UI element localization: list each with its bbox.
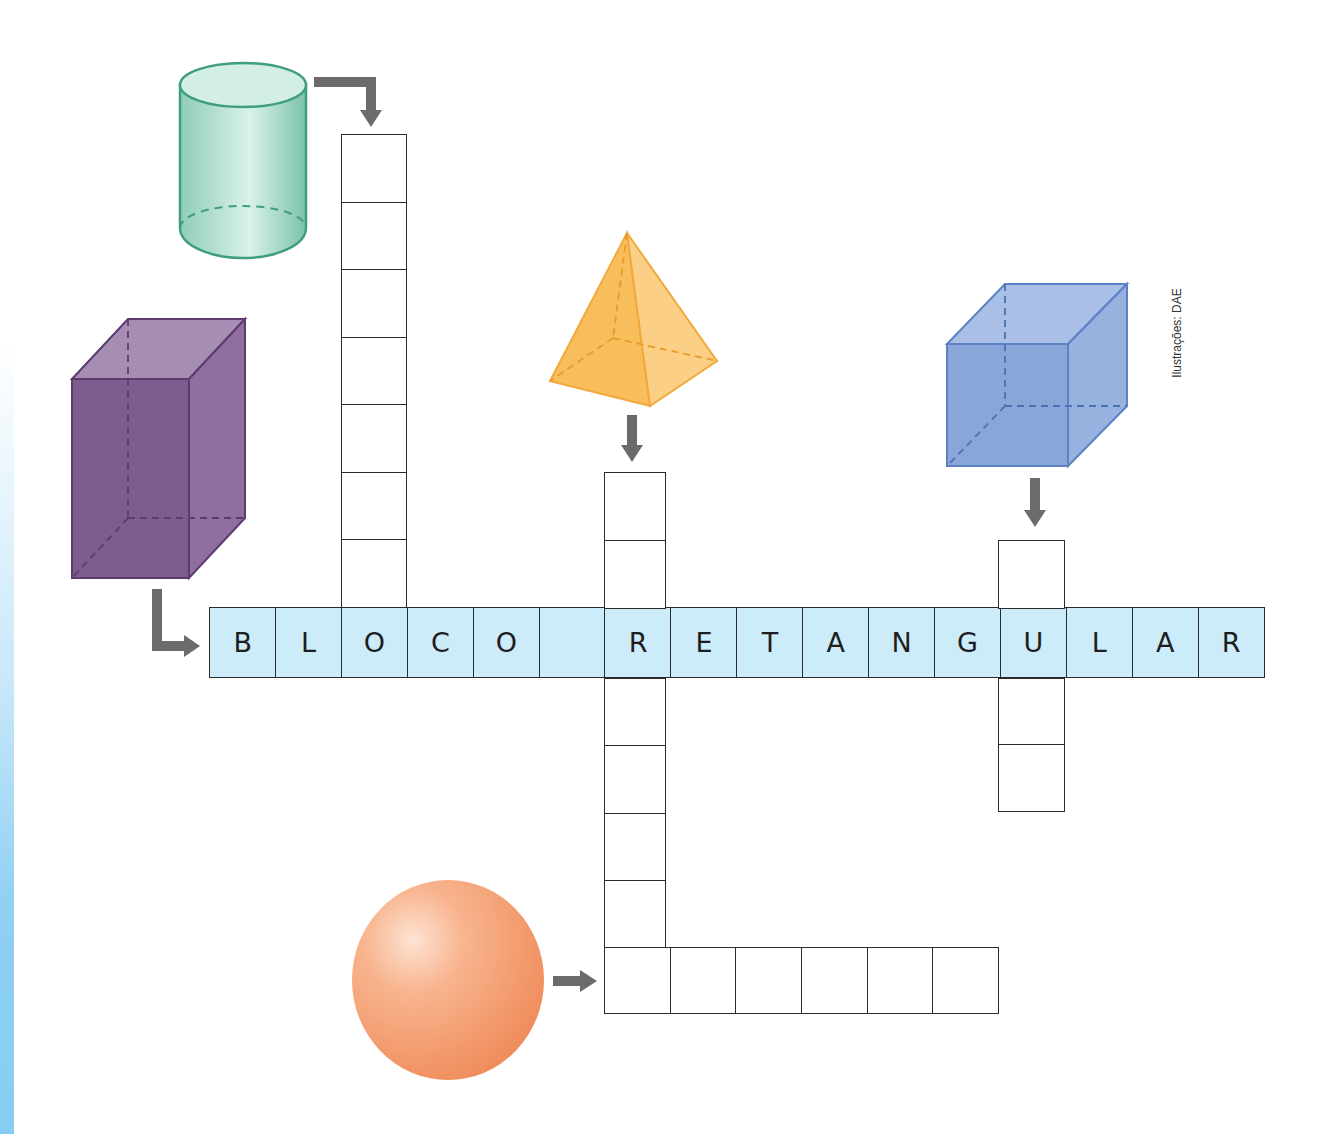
crossword-cell[interactable] [341,134,407,203]
crossword-cell[interactable] [341,337,407,406]
arrow-cylinder-icon [314,82,371,112]
arrow-prism-icon [157,589,186,646]
sphere-icon [352,880,544,1080]
crossword-cell[interactable] [735,947,802,1014]
crossword-cell[interactable] [341,404,407,473]
arrowhead-pyramid-icon [621,445,643,462]
crossword-cell[interactable] [604,678,666,747]
crossword-cell[interactable]: O [341,607,408,678]
crossword-cell[interactable] [341,539,407,608]
crossword-cell[interactable] [604,947,671,1014]
crossword-cell[interactable]: L [275,607,342,678]
crossword-cell[interactable]: T [736,607,803,678]
crossword-cell[interactable] [341,202,407,271]
arrowhead-cube-icon [1024,510,1046,527]
pyramid-icon [550,233,717,406]
cylinder-icon [180,63,306,258]
crossword-cell[interactable] [604,472,666,541]
illustration-credit: Ilustrações: DAE [1170,283,1184,383]
arrowhead-sphere-icon [580,970,597,992]
crossword-cell[interactable]: L [1066,607,1133,678]
crossword-cell[interactable] [998,540,1065,609]
crossword-cell[interactable] [341,269,407,338]
crossword-cell[interactable] [604,880,666,949]
crossword-cell[interactable] [341,472,407,541]
crossword-cell[interactable] [932,947,999,1014]
crossword-cell[interactable] [539,607,606,678]
crossword-cell[interactable]: R [604,607,671,678]
crossword-cell[interactable] [670,947,737,1014]
crossword-cell[interactable]: N [868,607,935,678]
arrowhead-cylinder-icon [360,110,382,127]
crossword-cell[interactable]: O [473,607,540,678]
crossword-cell[interactable]: U [1000,607,1067,678]
crossword-cell[interactable] [867,947,934,1014]
crossword-cell[interactable]: G [934,607,1001,678]
crossword-cell[interactable]: E [670,607,737,678]
crossword-cell[interactable]: R [1198,607,1265,678]
crossword-cell[interactable]: A [1132,607,1199,678]
crossword-cell[interactable] [604,540,666,609]
crossword-cell[interactable] [604,745,666,814]
arrowhead-prism-icon [184,635,200,657]
crossword-cell[interactable] [801,947,868,1014]
crossword-cell[interactable]: A [802,607,869,678]
crossword-cell[interactable] [998,678,1065,746]
crossword-cell[interactable] [998,744,1065,812]
crossword-cell[interactable] [604,813,666,882]
rectangular-prism-icon [72,319,245,578]
crossword-cell[interactable]: B [209,607,276,678]
crossword-cell[interactable]: C [407,607,474,678]
cube-icon [947,284,1127,466]
